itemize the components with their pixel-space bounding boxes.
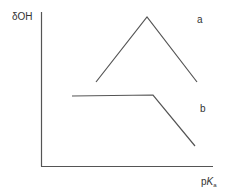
series-b-line xyxy=(72,95,195,146)
series-a-label: a xyxy=(197,15,203,25)
chart-canvas xyxy=(0,0,227,193)
y-axis-label: δOH xyxy=(12,12,33,22)
series-b-label: b xyxy=(200,104,206,114)
x-axis-label: pKa xyxy=(201,177,217,188)
series-a-line xyxy=(96,17,197,82)
x-axis-label-sub: a xyxy=(213,182,216,188)
